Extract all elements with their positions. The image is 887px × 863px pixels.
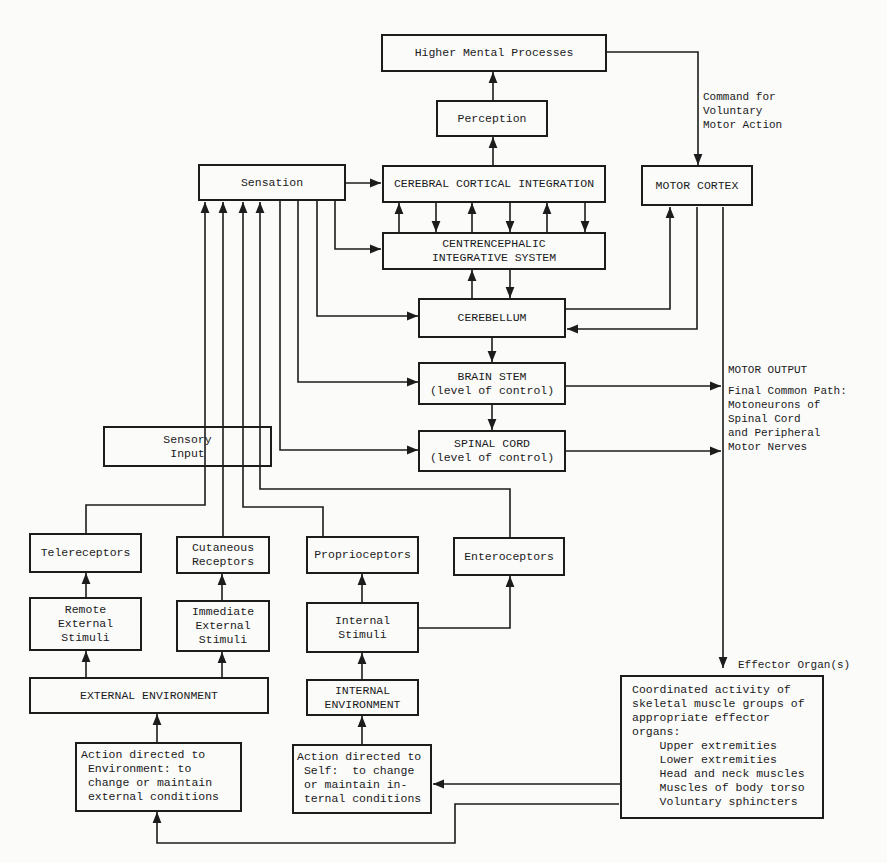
final-common-path-label: Final Common Path: Motoneurons of Spinal… — [728, 384, 847, 454]
enteroceptors-box: Enteroceptors — [453, 537, 565, 576]
spinal-cord-box: SPINAL CORD (level of control) — [418, 430, 566, 472]
perception-box: Perception — [436, 100, 548, 137]
sensory-input-box: Sensory Input — [103, 426, 272, 467]
motor-output-label: MOTOR OUTPUT — [728, 363, 807, 377]
effector-organs-box: Coordinated activity of skeletal muscle … — [620, 675, 824, 819]
action-directed-to-self-box: Action directed to Self: to change or ma… — [292, 744, 432, 814]
action-directed-to-environment-box: Action directed to Environment: to chang… — [75, 742, 242, 812]
immediate-external-stimuli-box: Immediate External Stimuli — [176, 600, 270, 652]
internal-environment-box: INTERNAL ENVIRONMENT — [306, 679, 419, 716]
brain-stem-box: BRAIN STEM (level of control) — [418, 362, 566, 405]
proprioceptors-box: Proprioceptors — [306, 536, 419, 574]
telereceptors-box: Telereceptors — [29, 533, 142, 573]
higher-mental-processes-box: Higher Mental Processes — [381, 34, 607, 72]
remote-external-stimuli-box: Remote External Stimuli — [29, 597, 142, 651]
centrencephalic-integrative-system-box: CENTRENCEPHALIC INTEGRATIVE SYSTEM — [382, 232, 606, 270]
external-environment-box: EXTERNAL ENVIRONMENT — [29, 677, 269, 714]
cerebral-cortical-integration-box: CEREBRAL CORTICAL INTEGRATION — [382, 165, 606, 203]
sensation-box: Sensation — [198, 164, 346, 201]
cutaneous-receptors-box: Cutaneous Receptors — [176, 536, 270, 574]
effector-organs-label: Effector Organ(s) — [738, 658, 850, 672]
cerebellum-box: CEREBELLUM — [418, 298, 566, 338]
command-voluntary-motor-action-label: Command for Voluntary Motor Action — [703, 90, 782, 132]
internal-stimuli-box: Internal Stimuli — [306, 602, 419, 653]
motor-cortex-box: MOTOR CORTEX — [641, 165, 753, 206]
